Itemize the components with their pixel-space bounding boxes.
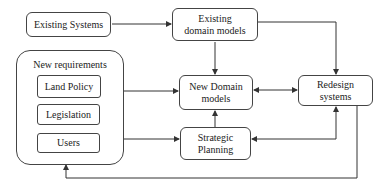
new-domain-models-label: New Domain models: [188, 81, 244, 105]
new-requirements-title: New requirements: [17, 59, 123, 70]
existing-domain-models-box: Existing domain models: [172, 8, 258, 41]
land-policy-box: Land Policy: [37, 75, 101, 98]
existing-systems-label: Existing Systems: [34, 19, 103, 31]
redesign-systems-box: Redesign systems: [298, 75, 373, 106]
existing-domain-models-label: Existing domain models: [183, 13, 247, 37]
legislation-label: Legislation: [46, 109, 91, 121]
strategic-planning-box: Strategic Planning: [180, 127, 251, 160]
new-domain-models-box: New Domain models: [179, 75, 253, 110]
users-label: Users: [57, 137, 80, 149]
strategic-planning-label: Strategic Planning: [191, 132, 240, 156]
land-policy-label: Land Policy: [45, 81, 94, 93]
legislation-box: Legislation: [37, 104, 100, 125]
redesign-systems-label: Redesign systems: [313, 79, 358, 103]
users-box: Users: [37, 133, 100, 153]
existing-systems-box: Existing Systems: [26, 12, 111, 37]
